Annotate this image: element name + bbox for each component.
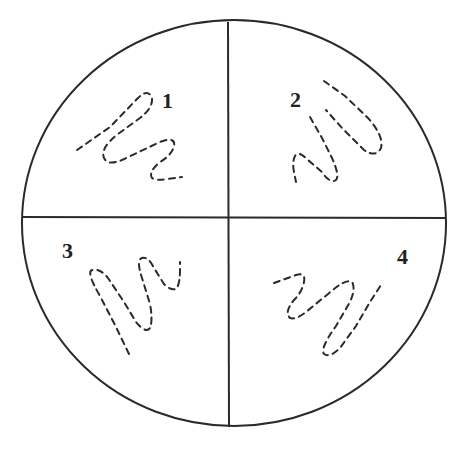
quadrant-3-label: 3 [62,238,73,263]
dish-outline [22,20,446,426]
horizontal-divider [22,217,446,218]
quadrant-3: 3 [62,238,180,354]
quadrant-1: 1 [77,88,182,180]
petri-dish-diagram: 1 2 3 4 [0,0,467,449]
vertical-divider [228,22,229,427]
quadrant-3-streak [90,258,180,354]
quadrant-2-streak-b [293,117,337,182]
quadrant-1-label: 1 [162,88,173,113]
quadrant-2: 2 [290,81,381,182]
quadrant-4-streak [274,274,381,355]
quadrant-4: 4 [274,244,408,355]
quadrant-4-label: 4 [397,244,408,269]
quadrant-2-streak-a [324,81,381,154]
quadrant-2-label: 2 [290,87,301,112]
